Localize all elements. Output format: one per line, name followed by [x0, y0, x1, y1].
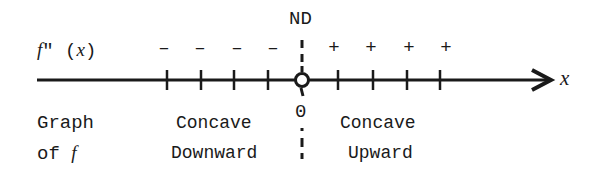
concave-downward-line1: Concave: [176, 113, 252, 133]
negative-sign: –: [231, 38, 242, 58]
negative-sign: –: [194, 38, 205, 58]
negative-sign: –: [158, 38, 169, 58]
concave-upward-line2: Upward: [348, 143, 413, 163]
not-defined-label: ND: [289, 9, 312, 29]
negative-sign: –: [267, 38, 278, 58]
graph-of-f-label-line1: Graph: [37, 113, 94, 133]
critical-dashed-line: [301, 40, 303, 159]
zero-label: 0: [295, 102, 306, 122]
row-label-f-double-prime: f" (x): [37, 40, 96, 61]
graph-of-f-label-line2: of f: [37, 143, 77, 164]
positive-sign: +: [403, 38, 414, 58]
f-symbol: f: [71, 142, 76, 163]
paren-close: ): [85, 40, 96, 62]
concave-upward-line1: Concave: [340, 113, 416, 133]
open-circle-icon: [296, 74, 309, 87]
paren-open: (: [65, 40, 76, 62]
positive-sign: +: [365, 38, 376, 58]
x-symbol: x: [77, 39, 85, 60]
double-prime-symbol: ": [42, 40, 53, 62]
x-axis-label: x: [560, 68, 569, 88]
concave-downward-line2: Downward: [171, 143, 257, 163]
positive-sign: +: [328, 38, 339, 58]
positive-sign: +: [440, 38, 451, 58]
of-text: of: [37, 143, 60, 165]
